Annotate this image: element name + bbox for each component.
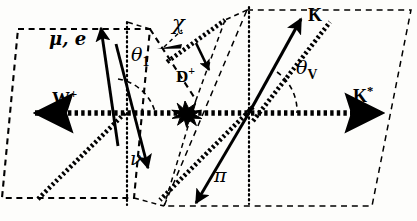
d-meson-momentum-arrow	[196, 43, 209, 70]
kstar-base: K	[353, 86, 367, 106]
chi-angle-wedge	[157, 44, 182, 49]
kaon-label: K	[308, 6, 322, 24]
theta-v-label: θV	[296, 58, 317, 81]
d-meson-label: D+	[176, 66, 195, 85]
decay-angle-diagram: K* ===== -->	[0, 0, 417, 221]
theta-one-base: θ	[131, 43, 142, 65]
theta-v-subscript: V	[307, 67, 317, 82]
kaon-momentum-arrow	[249, 19, 301, 113]
theta-v-arc	[277, 72, 297, 113]
construction-edge-join	[225, 10, 247, 20]
w-boson-charge: +	[70, 87, 77, 101]
lepton-plane-hatched-line	[38, 113, 125, 199]
w-boson-label: W+	[52, 88, 77, 108]
pion-label: π	[214, 166, 227, 185]
theta-one-label: θ1	[131, 45, 149, 68]
kstar-label: K*	[353, 85, 373, 105]
theta-one-subscript: 1	[142, 54, 149, 69]
d-meson-charge: +	[188, 64, 195, 78]
w-boson-base: W	[52, 89, 70, 109]
construction-edge-right	[196, 20, 225, 100]
lepton-label: μ, e	[49, 30, 86, 48]
mu-symbol: μ, e	[49, 28, 86, 49]
chi-label: χ	[172, 13, 185, 34]
d-meson-base: D	[176, 67, 188, 86]
kstar-charge: *	[367, 84, 373, 98]
neutrino-label: ν	[130, 149, 142, 168]
theta-v-base: θ	[296, 56, 307, 78]
